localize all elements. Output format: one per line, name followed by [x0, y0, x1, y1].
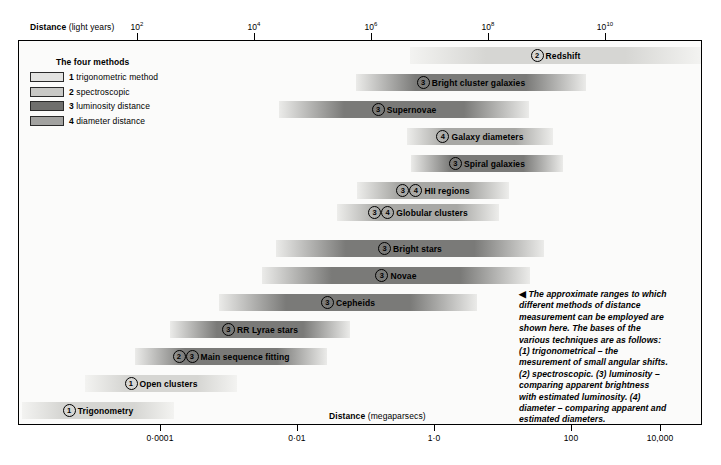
bottom-tick-mark — [571, 425, 572, 431]
legend-item-2: 2 spectroscopic — [30, 86, 205, 98]
range-bar: 3Spiral galaxies — [411, 155, 563, 172]
method-badge-3: 3 — [321, 296, 334, 309]
method-badge-3: 3 — [375, 269, 388, 282]
legend-label-4: 4 diameter distance — [69, 116, 145, 126]
bottom-tick-mark — [297, 425, 298, 431]
diagram-root: Distance (light years) 1021041061081010 … — [0, 0, 721, 465]
legend-item-3: 3 luminosity distance — [30, 100, 205, 112]
range-bar: 34HII regions — [357, 182, 509, 199]
range-bar-name: RR Lyrae stars — [237, 325, 298, 335]
range-bar-name: Main sequence fitting — [201, 352, 290, 362]
range-bar-name: Redshift — [546, 51, 581, 61]
range-bar: 1Open clusters — [85, 375, 237, 392]
method-badge-3: 3 — [186, 350, 199, 363]
range-bar-label: 3Bright cluster galaxies — [417, 76, 525, 89]
top-tick-mark — [605, 33, 606, 40]
legend-swatch-4 — [30, 116, 64, 126]
range-bar-label: 23Main sequence fitting — [173, 350, 290, 363]
top-axis-title: Distance (light years) — [30, 22, 114, 32]
method-badge-3: 3 — [449, 157, 462, 170]
bottom-axis: 0·00010·011·010010,000 — [18, 424, 702, 446]
bottom-tick-label: 10,000 — [647, 433, 674, 443]
range-bar-label: 3Novae — [375, 269, 416, 282]
legend-label-2: 2 spectroscopic — [69, 87, 130, 97]
top-axis-title-bold: Distance — [30, 22, 66, 32]
legend-swatch-1 — [30, 72, 64, 82]
caption-text: The approximate ranges to which differen… — [519, 289, 668, 424]
range-bar-name: Novae — [390, 271, 416, 281]
range-bar-label: 3RR Lyrae stars — [222, 323, 298, 336]
top-tick-mark — [371, 33, 372, 40]
method-badge-3: 3 — [417, 76, 430, 89]
range-bar-label: 4Galaxy diameters — [436, 130, 523, 143]
range-bar-name: Open clusters — [140, 379, 198, 389]
method-badge-3: 3 — [378, 242, 391, 255]
range-bar: 3RR Lyrae stars — [170, 321, 350, 338]
bottom-tick-label: 0·01 — [288, 433, 305, 443]
range-bar-name: Trigonometry — [78, 406, 134, 416]
method-badge-4: 4 — [409, 184, 422, 197]
range-bar: 1Trigonometry — [22, 402, 174, 419]
method-badge-3: 3 — [396, 184, 409, 197]
caption-block: ◀ The approximate ranges to which differ… — [519, 289, 669, 424]
bottom-tick-mark — [434, 425, 435, 431]
range-bar-label: 34HII regions — [396, 184, 469, 197]
range-bar-label: 34Globular clusters — [368, 206, 468, 219]
method-badge-1: 1 — [63, 404, 76, 417]
top-tick-label: 102 — [130, 21, 143, 32]
range-bar: 4Galaxy diameters — [407, 128, 553, 145]
legend-item-4: 4 diameter distance — [30, 115, 205, 127]
method-badge-2: 2 — [173, 350, 186, 363]
range-bar-label: 1Open clusters — [125, 377, 198, 390]
method-badge-4: 4 — [381, 206, 394, 219]
bottom-tick-label: 0·0001 — [146, 433, 173, 443]
range-bar-label: 1Trigonometry — [63, 404, 134, 417]
range-bar: 3Supernovae — [279, 101, 529, 118]
range-bar: 23Main sequence fitting — [135, 348, 327, 365]
range-bar-name: Bright stars — [393, 244, 442, 254]
range-bar: 2Redshift — [410, 47, 701, 64]
range-bar-name: Supernovae — [387, 105, 437, 115]
legend: The four methods 1 trigonometric method2… — [30, 57, 205, 129]
range-bar-name: HII regions — [424, 186, 469, 196]
legend-item-1: 1 trigonometric method — [30, 71, 205, 83]
range-bar: 3Bright stars — [276, 240, 544, 257]
range-bar-name: Cepheids — [336, 298, 375, 308]
range-bar-label: 3Bright stars — [378, 242, 442, 255]
range-bar-name: Galaxy diameters — [451, 132, 523, 142]
top-tick-mark — [137, 33, 138, 40]
range-bar: 34Globular clusters — [337, 204, 499, 221]
bottom-tick-mark — [160, 425, 161, 431]
top-tick-mark — [488, 33, 489, 40]
range-bar-label: 3Spiral galaxies — [449, 157, 525, 170]
plot-area: The four methods 1 trigonometric method2… — [19, 41, 701, 424]
range-bar: 3Cepheids — [219, 294, 477, 311]
range-bar-name: Bright cluster galaxies — [432, 78, 525, 88]
bottom-tick-label: 1·0 — [428, 433, 441, 443]
method-badge-3: 3 — [372, 103, 385, 116]
bottom-axis-title: Distance (megaparsecs) — [329, 411, 426, 421]
method-badge-2: 2 — [531, 49, 544, 62]
top-tick-label: 104 — [247, 21, 260, 32]
bottom-axis-title-unit: (megaparsecs) — [365, 411, 425, 421]
method-badge-3: 3 — [222, 323, 235, 336]
top-axis: Distance (light years) 1021041061081010 — [18, 14, 702, 41]
method-badge-3: 3 — [368, 206, 381, 219]
range-bar-label: 3Cepheids — [321, 296, 375, 309]
method-badge-1: 1 — [125, 377, 138, 390]
top-tick-label: 108 — [481, 21, 494, 32]
legend-label-1: 1 trigonometric method — [69, 72, 158, 82]
bottom-tick-mark — [660, 425, 661, 431]
range-bar-name: Globular clusters — [396, 208, 468, 218]
range-bar-label: 3Supernovae — [372, 103, 437, 116]
range-bar-name: Spiral galaxies — [464, 159, 525, 169]
caption-marker-icon: ◀ — [519, 289, 526, 299]
legend-swatch-3 — [30, 101, 64, 111]
legend-label-3: 3 luminosity distance — [69, 101, 150, 111]
range-bar: 3Novae — [262, 267, 530, 284]
top-tick-mark — [254, 33, 255, 40]
range-bar-label: 2Redshift — [531, 49, 581, 62]
top-axis-title-unit: (light years) — [66, 22, 114, 32]
top-tick-label: 106 — [364, 21, 377, 32]
bottom-axis-title-bold: Distance — [329, 411, 365, 421]
